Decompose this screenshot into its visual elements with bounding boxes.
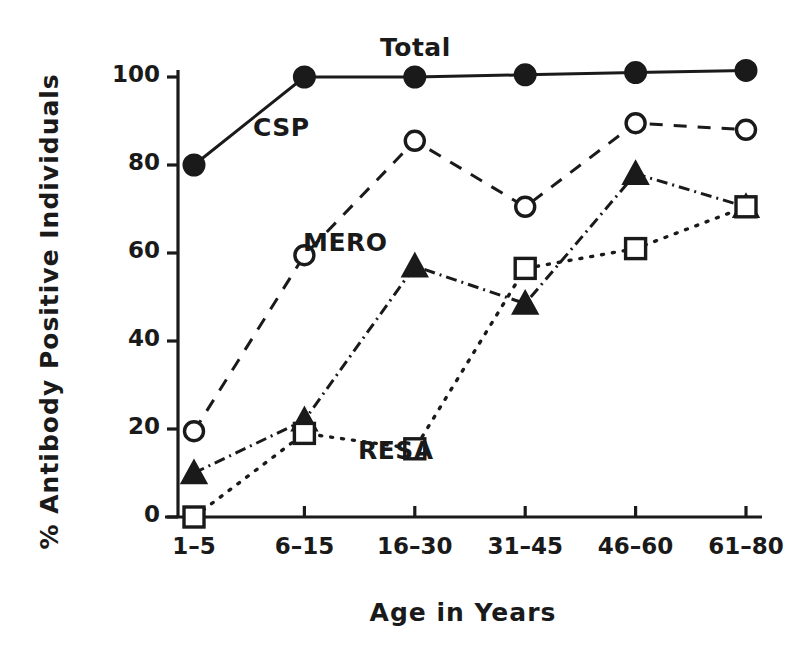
data-point-resa-61-80 xyxy=(736,197,756,217)
y-tick-label-0: 0 xyxy=(144,501,160,527)
series-label-mero: MERO xyxy=(303,228,387,257)
series-label-total: Total xyxy=(380,33,451,62)
data-point-csp-1-5 xyxy=(185,422,204,441)
data-point-resa-1-5 xyxy=(184,507,204,527)
data-point-csp-16-30 xyxy=(405,131,424,150)
data-point-total-31-45 xyxy=(515,64,536,85)
data-point-total-1-5 xyxy=(184,155,205,176)
data-point-total-61-80 xyxy=(736,60,757,81)
chart-figure: % Antibody Positive Individuals Age in Y… xyxy=(0,0,794,653)
y-tick-label-80: 80 xyxy=(128,149,160,175)
data-point-csp-46-60 xyxy=(626,114,645,133)
data-point-total-6-15 xyxy=(294,67,315,88)
y-tick-label-60: 60 xyxy=(128,237,160,263)
x-tick-label-61-80: 61–80 xyxy=(676,533,794,559)
data-point-mero-1-5 xyxy=(182,461,207,484)
series-line-mero xyxy=(194,174,746,473)
data-point-csp-61-80 xyxy=(737,120,756,139)
data-point-mero-46-60 xyxy=(623,161,648,184)
data-point-total-46-60 xyxy=(625,62,646,83)
y-axis-title: % Antibody Positive Individuals xyxy=(35,80,64,550)
series-line-csp xyxy=(194,123,746,431)
data-point-csp-31-45 xyxy=(516,197,535,216)
data-point-total-16-30 xyxy=(404,67,425,88)
series-line-resa xyxy=(194,207,746,517)
y-tick-label-40: 40 xyxy=(128,325,160,351)
data-point-resa-31-45 xyxy=(515,258,535,278)
series-label-csp: CSP xyxy=(253,113,310,142)
series-label-resa: RESA xyxy=(358,436,434,465)
x-axis-title: Age in Years xyxy=(178,598,748,627)
y-tick-label-100: 100 xyxy=(112,61,160,87)
data-point-mero-16-30 xyxy=(402,254,427,277)
y-tick-label-20: 20 xyxy=(128,413,160,439)
data-point-resa-6-15 xyxy=(294,423,314,443)
data-point-resa-46-60 xyxy=(626,239,646,259)
